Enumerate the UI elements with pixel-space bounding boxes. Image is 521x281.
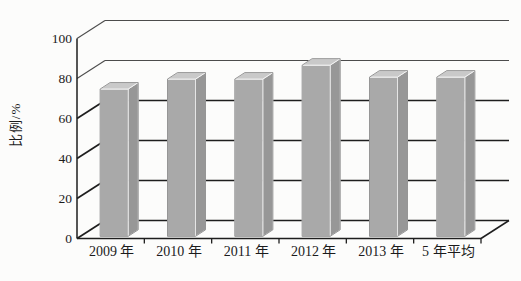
bar-side-face [330, 59, 340, 237]
bar-front-face [370, 77, 398, 236]
bar-side-face [398, 71, 408, 237]
gridline-stub [77, 61, 105, 79]
bar-item-1 [168, 73, 206, 237]
bar-item-4 [370, 71, 408, 237]
chart-figure: 比例/% 0204060801002009 年2010 年2011 年2012 … [0, 0, 521, 281]
bar-front-face [235, 79, 263, 236]
y-tick-label: 20 [28, 191, 72, 207]
bar-side-face [263, 73, 273, 237]
y-tick-label: 40 [28, 151, 72, 167]
bar-chart-3d [0, 0, 521, 281]
bar-front-face [100, 89, 128, 236]
bar-side-face [465, 71, 475, 237]
bar-side-face [128, 83, 138, 237]
y-tick-label: 80 [28, 71, 72, 87]
x-category-label: 5 年平均 [406, 243, 490, 260]
bar-item-3 [302, 59, 340, 237]
bar-item-5 [437, 71, 475, 237]
bar-side-face [196, 73, 206, 237]
floor-right-edge [481, 221, 509, 239]
bar-item-2 [235, 73, 273, 237]
bar-item-0 [100, 83, 138, 237]
y-tick-label: 100 [28, 31, 72, 47]
bar-front-face [168, 79, 196, 236]
y-tick-label: 0 [28, 231, 72, 247]
bar-front-face [302, 65, 330, 236]
y-axis-title: 比例/% [8, 81, 24, 169]
bar-front-face [437, 77, 465, 236]
gridline-stub [77, 21, 105, 39]
y-tick-label: 60 [28, 111, 72, 127]
